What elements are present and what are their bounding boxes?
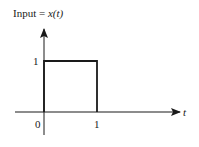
y-tick-label-1: 1 [33,55,39,67]
x-tick-label-1: 1 [94,118,100,130]
diagram-title: Input = x(t) [13,7,64,20]
x-axis-label: t [183,106,187,118]
x-tick-label-0: 0 [35,118,41,130]
pulse-signal [44,61,97,112]
pulse-diagram: Input = x(t) 1 0 1 t [0,0,199,147]
